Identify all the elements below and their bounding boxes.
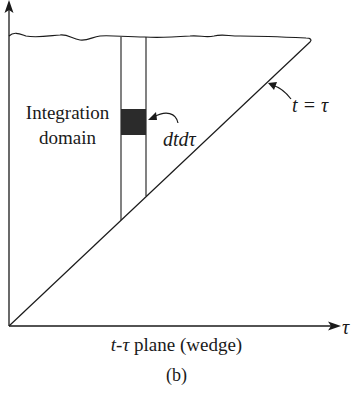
element-pointer-arrowhead [148,112,157,120]
caption-text: plane (wedge) [129,334,242,355]
label-line-1: Integration [20,100,115,125]
integration-domain-label: Integration domain [20,100,115,150]
subfigure-label: (b) [0,365,353,386]
wavy-upper-boundary [9,33,311,42]
figure-caption: t-τ plane (wedge) [0,334,353,356]
element-pointer-arrow [154,113,178,123]
element-label: dtdτ [163,128,196,151]
label-line-2: domain [20,125,115,150]
diagonal-label: t = τ [292,94,328,117]
diagonal-t-equals-tau [9,42,310,326]
caption-variables: t-τ [111,334,129,355]
differential-element [121,109,146,135]
wedge-diagram: Integration domain dtdτ t = τ τ t-τ plan… [0,0,353,393]
